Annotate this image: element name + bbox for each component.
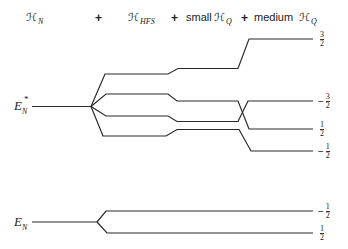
numerator: 3 [320, 31, 324, 39]
denominator: 2 [320, 130, 324, 138]
numerator: 1 [326, 143, 330, 151]
subscript: N [22, 223, 27, 232]
ground-level-minus-1-2 [97, 211, 313, 222]
fraction: 1 2 [326, 143, 330, 160]
fraction: 1 2 [320, 225, 324, 242]
sign: − [318, 96, 324, 107]
m-label-3-2: 3 2 [318, 31, 324, 48]
ground-m-label-1-2: 1 2 [318, 225, 324, 242]
denominator: 2 [320, 40, 324, 48]
sign: − [318, 206, 324, 217]
denominator: 2 [320, 234, 324, 242]
numerator: 1 [326, 203, 330, 211]
ground-level-1-2 [97, 222, 313, 233]
excited-level-3-2 [91, 39, 313, 107]
denominator: 2 [326, 102, 330, 110]
fraction: 3 2 [326, 93, 330, 110]
m-label-minus-1-2: − 1 2 [318, 143, 330, 160]
m-label-minus-3-2: − 3 2 [318, 93, 330, 110]
sign: − [318, 146, 324, 157]
denominator: 2 [326, 212, 330, 220]
fraction: 1 2 [326, 203, 330, 220]
ground-m-label-minus-1-2: − 1 2 [318, 203, 330, 220]
numerator: 1 [320, 121, 324, 129]
energy-symbol: E [14, 214, 22, 229]
subscript: N [22, 107, 27, 116]
numerator: 1 [320, 225, 324, 233]
superscript-star: * [24, 94, 29, 104]
ground-energy-label: EN [14, 214, 27, 232]
excited-energy-label: EN * [14, 98, 27, 116]
fraction: 3 2 [320, 31, 324, 48]
energy-level-diagram [0, 0, 348, 249]
energy-symbol: E [14, 98, 22, 113]
excited-level-2 [91, 94, 313, 129]
excited-level-3 [91, 101, 313, 122]
denominator: 2 [326, 152, 330, 160]
fraction: 1 2 [320, 121, 324, 138]
m-label-1-2: 1 2 [318, 121, 324, 138]
numerator: 3 [326, 93, 330, 101]
